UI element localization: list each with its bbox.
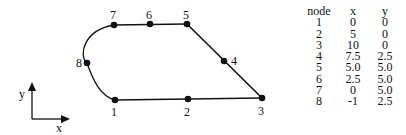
y-arrow-head-icon (28, 82, 36, 91)
node-3 (259, 95, 266, 102)
axis-indicator (28, 82, 70, 123)
cell-node: 8 (300, 96, 338, 107)
node-label-5: 5 (183, 8, 189, 22)
table-row: 8-12.5 (300, 96, 402, 107)
x-arrow-head-icon (61, 115, 70, 123)
node-8 (84, 60, 91, 67)
node-2 (185, 96, 192, 103)
node-label-3: 3 (258, 104, 264, 118)
node-label-2: 2 (184, 105, 190, 119)
element-nodes (84, 21, 266, 104)
node-1 (112, 97, 119, 104)
node-label-7: 7 (110, 8, 116, 22)
node-label-4: 4 (231, 54, 237, 68)
cell-y: 2.5 (368, 96, 402, 107)
node-4 (221, 58, 228, 65)
y-axis-label: y (19, 87, 25, 101)
node-label-1: 1 (111, 105, 117, 119)
node-7 (111, 22, 118, 29)
node-label-8: 8 (76, 56, 82, 70)
node-coordinates-table: node x y 100 250 3100 47.52.5 55.05.0 62… (300, 6, 402, 108)
cell-x: -1 (338, 96, 368, 107)
x-axis-label: x (56, 121, 62, 135)
node-label-6: 6 (146, 8, 152, 22)
